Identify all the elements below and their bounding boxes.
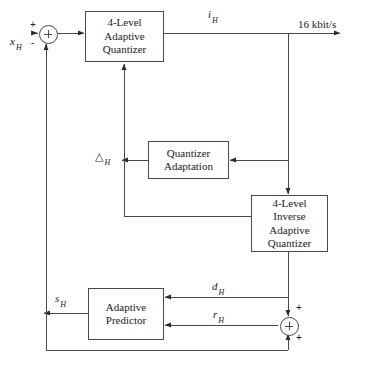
block-adaptive-predictor-line-1: Adaptive: [106, 301, 146, 315]
sign-output-plus-bottom: +: [296, 333, 302, 343]
block-quantizer-adaptation-line-2: Adaptation: [164, 160, 213, 174]
label-reconstructed-signal: sH: [55, 292, 65, 307]
label-residual-signal: rH: [213, 308, 223, 323]
block-inverse-quantizer[interactable]: 4-Level Inverse Adaptive Quantizer: [251, 195, 328, 252]
block-quantizer-adaptation[interactable]: Quantizer Adaptation: [148, 141, 229, 179]
sign-output-plus-top: +: [296, 303, 302, 313]
label-reconstructed-signal-base: s: [55, 292, 59, 304]
label-bitrate: 16 kbit/s: [298, 18, 336, 30]
label-quantizer-index-sub: H: [212, 16, 218, 25]
sign-input-minus: -: [31, 38, 34, 48]
summing-node-input: [39, 25, 58, 44]
label-step-size-base: △: [95, 150, 103, 162]
block-quantizer-line-2: Adaptive: [104, 30, 144, 44]
label-reconstructed-signal-sub: H: [60, 300, 66, 309]
block-quantizer[interactable]: 4-Level Adaptive Quantizer: [85, 11, 164, 62]
block-inverse-quantizer-line-3: Adaptive: [269, 224, 309, 238]
label-input-signal: xH: [10, 35, 21, 50]
sign-input-plus: +: [30, 20, 36, 30]
label-quantizer-index: iH: [208, 8, 217, 23]
label-step-size: △H: [95, 150, 109, 165]
block-quantizer-line-1: 4-Level: [107, 16, 141, 30]
block-adaptive-predictor-line-2: Predictor: [106, 314, 146, 328]
diagram-wires: [0, 0, 383, 370]
label-input-signal-sub: H: [16, 43, 22, 52]
label-difference-signal-base: d: [212, 280, 218, 292]
block-adaptive-predictor[interactable]: Adaptive Predictor: [88, 288, 164, 340]
block-quantizer-line-3: Quantizer: [103, 43, 146, 57]
block-diagram-canvas: 4-Level Adaptive Quantizer Quantizer Ada…: [0, 0, 383, 370]
block-inverse-quantizer-line-1: 4-Level: [272, 197, 306, 211]
label-input-signal-base: x: [10, 35, 15, 47]
label-quantizer-index-base: i: [208, 8, 211, 20]
label-difference-signal: dH: [212, 280, 223, 295]
block-inverse-quantizer-line-2: Inverse: [273, 210, 305, 224]
label-residual-signal-base: r: [213, 308, 217, 320]
label-residual-signal-sub: H: [218, 316, 224, 325]
label-step-size-sub: H: [104, 158, 110, 167]
label-difference-signal-sub: H: [219, 288, 225, 297]
block-quantizer-adaptation-line-1: Quantizer: [167, 147, 210, 161]
block-inverse-quantizer-line-4: Quantizer: [268, 237, 311, 251]
